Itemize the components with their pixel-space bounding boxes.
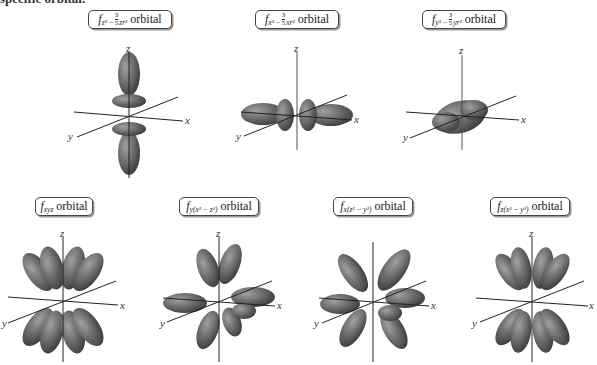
y-axis-label: y bbox=[1, 317, 7, 329]
y-axis-label: y bbox=[471, 317, 477, 329]
x-axis-label: x bbox=[520, 113, 526, 125]
x-axis-label: x bbox=[353, 113, 359, 125]
orbital-fz3-figure: z x y bbox=[67, 42, 190, 178]
x-axis-label: x bbox=[430, 299, 436, 311]
z-axis-label: z bbox=[293, 42, 299, 54]
orbital-fxyz-figure: z x y bbox=[1, 227, 125, 362]
z-axis-label: z bbox=[528, 227, 534, 239]
orbital-fzx2y2-figure: z x y bbox=[471, 227, 594, 362]
z-axis-label: z bbox=[458, 44, 464, 56]
y-axis-label: y bbox=[313, 317, 319, 329]
x-axis-label: x bbox=[276, 299, 282, 311]
orbital-figures: z x y z x y z x y bbox=[0, 0, 597, 365]
z-axis-label: z bbox=[125, 42, 131, 54]
z-axis-label: z bbox=[215, 227, 221, 239]
y-axis-label: y bbox=[67, 130, 73, 142]
orbital-fyx2z2-figure: z x y bbox=[159, 227, 282, 362]
y-axis-label: y bbox=[402, 131, 408, 143]
x-axis-label: x bbox=[119, 299, 125, 311]
orbital-fy3-figure: z x y bbox=[402, 44, 526, 150]
y-axis-label: y bbox=[235, 130, 241, 142]
y-axis-label: y bbox=[159, 317, 165, 329]
orbital-fx3-figure: z x y bbox=[235, 42, 359, 150]
x-axis-label: x bbox=[184, 114, 190, 126]
z-axis-label: z bbox=[59, 227, 65, 239]
orbital-fxz2y2-figure: x y bbox=[313, 242, 436, 362]
x-axis-label: x bbox=[588, 299, 594, 311]
